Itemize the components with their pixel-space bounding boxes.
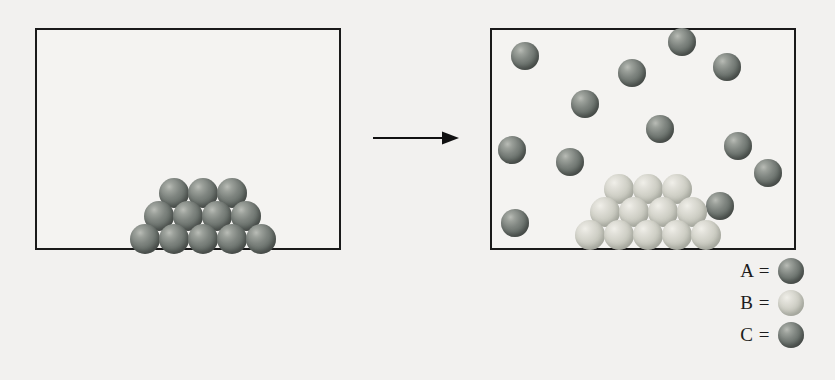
light-solid-stack-sphere	[691, 220, 721, 250]
legend-label: A =	[726, 260, 770, 282]
light-solid-stack-sphere	[633, 220, 663, 250]
dark-gas-particles-sphere	[646, 115, 674, 143]
light-solid-stack-sphere	[575, 220, 605, 250]
dark-gas-particles-sphere	[618, 59, 646, 87]
dark-gas-particles-sphere	[571, 90, 599, 118]
dark-gas-particles-sphere	[501, 209, 529, 237]
dark-gas-particles-sphere	[713, 53, 741, 81]
dark-solid-stack-sphere	[159, 224, 189, 254]
light-sphere-swatch	[778, 290, 804, 316]
dark-gas-particles-sphere	[706, 192, 734, 220]
legend-label: B =	[726, 292, 770, 314]
dark-solid-stack-sphere	[217, 224, 247, 254]
species-legend: A =B =C =	[726, 256, 826, 360]
dark-gas-particles-sphere	[724, 132, 752, 160]
dark-solid-stack-sphere	[188, 224, 218, 254]
dark-solid-stack-sphere	[246, 224, 276, 254]
dark-sphere-swatch	[778, 258, 804, 284]
arrow-icon	[372, 126, 460, 150]
dark-gas-particles-sphere	[754, 159, 782, 187]
legend-row: C =	[726, 320, 826, 350]
reaction-arrow	[372, 126, 460, 150]
dark-gas-particles-sphere	[498, 136, 526, 164]
dark-sphere-swatch	[778, 322, 804, 348]
dark-gas-particles-sphere	[511, 42, 539, 70]
dark-gas-particles-sphere	[556, 148, 584, 176]
figure-canvas: A =B =C =	[0, 0, 835, 380]
dark-gas-particles-sphere	[668, 28, 696, 56]
legend-label: C =	[726, 324, 770, 346]
dark-solid-stack-sphere	[130, 224, 160, 254]
light-solid-stack-sphere	[662, 220, 692, 250]
legend-row: A =	[726, 256, 826, 286]
light-solid-stack-sphere	[604, 220, 634, 250]
legend-row: B =	[726, 288, 826, 318]
